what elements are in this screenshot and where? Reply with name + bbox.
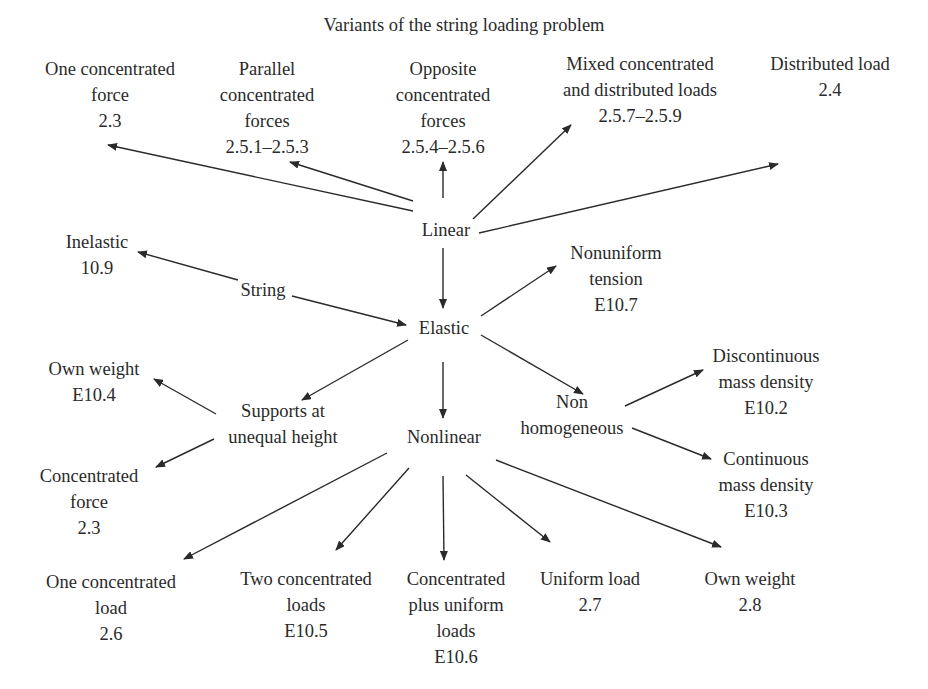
node-label-line: Own weight — [705, 566, 796, 592]
node-label-line: concentrated — [220, 82, 315, 108]
node-discontinuous-mass-density: Discontinuousmass densityE10.2 — [713, 343, 820, 421]
node-label-line: 2.7 — [540, 592, 640, 618]
arrow-non_homogeneous-to-discontinuous_mass_density — [625, 370, 703, 406]
node-label-line: forces — [396, 108, 491, 134]
node-mixed-loads: Mixed concentratedand distributed loads2… — [563, 51, 717, 129]
node-nonlinear: Nonlinear — [407, 424, 481, 450]
node-one-concentrated-load: One concentratedload2.6 — [46, 569, 176, 647]
node-label-line: 2.3 — [40, 515, 139, 541]
node-label-line: forces — [220, 108, 315, 134]
node-label-line: Distributed load — [770, 51, 890, 77]
node-label-line: loads — [240, 592, 372, 618]
node-non-homogeneous: Nonhomogeneous — [521, 389, 624, 441]
arrow-linear-to-parallel_concentrated_forces — [290, 162, 413, 201]
arrow-nonlinear-to-uniform_load — [466, 475, 550, 542]
node-label-line: String — [240, 277, 285, 303]
node-label-line: Parallel — [220, 56, 315, 82]
node-label-line: 2.5.7–2.5.9 — [563, 103, 717, 129]
node-concentrated-plus-uniform-loads: Concentratedplus uniformloadsE10.6 — [407, 566, 506, 670]
node-label-line: E10.3 — [718, 498, 813, 524]
node-inelastic: Inelastic10.9 — [66, 229, 129, 281]
node-label-line: mass density — [713, 369, 820, 395]
node-label-line: Continuous — [718, 446, 813, 472]
arrow-nonlinear-to-one_concentrated_load — [184, 453, 387, 559]
arrow-non_homogeneous-to-continuous_mass_density — [632, 428, 711, 459]
node-label-line: One concentrated — [46, 569, 176, 595]
node-label-line: Own weight — [49, 356, 140, 382]
node-label-line: E10.6 — [407, 644, 506, 670]
node-label-line: Non — [521, 389, 624, 415]
node-label-line: E10.4 — [49, 382, 140, 408]
node-one-concentrated-force: One concentratedforce2.3 — [45, 56, 175, 134]
node-label-line: Inelastic — [66, 229, 129, 255]
node-label-line: loads — [407, 618, 506, 644]
node-label-line: concentrated — [396, 82, 491, 108]
node-nonuniform-tension: NonuniformtensionE10.7 — [570, 240, 661, 318]
node-string: String — [240, 277, 285, 303]
node-concentrated-force-2-3: Concentratedforce2.3 — [40, 463, 139, 541]
diagram-title: Variants of the string loading problem — [0, 14, 928, 36]
arrow-string-to-inelastic — [138, 252, 238, 280]
node-own-weight-2-8: Own weight2.8 — [705, 566, 796, 618]
node-label-line: Discontinuous — [713, 343, 820, 369]
node-label-line: One concentrated — [45, 56, 175, 82]
node-label-line: Concentrated — [40, 463, 139, 489]
node-elastic: Elastic — [419, 315, 469, 341]
node-label-line: Nonlinear — [407, 424, 481, 450]
cropped-caption-line — [520, 683, 928, 689]
node-label-line: Concentrated — [407, 566, 506, 592]
node-label-line: Supports at — [228, 398, 337, 424]
node-label-line: tension — [570, 266, 661, 292]
node-uniform-load: Uniform load2.7 — [540, 566, 640, 618]
node-label-line: 2.4 — [770, 77, 890, 103]
node-label-line: 2.6 — [46, 621, 176, 647]
arrow-supports_unequal_height-to-own_weight_e104 — [154, 379, 216, 414]
node-two-concentrated-loads: Two concentratedloadsE10.5 — [240, 566, 372, 644]
node-own-weight-e10-4: Own weightE10.4 — [49, 356, 140, 408]
node-linear: Linear — [422, 217, 470, 243]
node-label-line: plus uniform — [407, 592, 506, 618]
node-label-line: and distributed loads — [563, 77, 717, 103]
node-label-line: force — [45, 82, 175, 108]
node-label-line: load — [46, 595, 176, 621]
node-label-line: Elastic — [419, 315, 469, 341]
node-label-line: Opposite — [396, 56, 491, 82]
node-label-line: Mixed concentrated — [563, 51, 717, 77]
node-label-line: Two concentrated — [240, 566, 372, 592]
node-label-line: E10.2 — [713, 395, 820, 421]
node-opposite-concentrated-forces: Oppositeconcentratedforces2.5.4–2.5.6 — [396, 56, 491, 160]
arrow-nonlinear-to-concentrated_plus_uniform — [443, 476, 444, 560]
node-label-line: E10.5 — [240, 618, 372, 644]
arrow-elastic-to-supports_unequal_height — [302, 340, 408, 400]
arrow-nonlinear-to-own_weight_28 — [496, 460, 721, 547]
node-label-line: homogeneous — [521, 415, 624, 441]
node-label-line: 10.9 — [66, 255, 129, 281]
node-parallel-concentrated-forces: Parallelconcentratedforces2.5.1–2.5.3 — [220, 56, 315, 160]
node-label-line: E10.7 — [570, 292, 661, 318]
node-label-line: mass density — [718, 472, 813, 498]
node-distributed-load: Distributed load2.4 — [770, 51, 890, 103]
node-continuous-mass-density: Continuousmass densityE10.3 — [718, 446, 813, 524]
node-supports-unequal-height: Supports atunequal height — [228, 398, 337, 450]
arrow-string-to-elastic — [292, 296, 406, 325]
node-label-line: force — [40, 489, 139, 515]
node-label-line: unequal height — [228, 424, 337, 450]
node-label-line: Linear — [422, 217, 470, 243]
node-label-line: 2.3 — [45, 108, 175, 134]
node-label-line: 2.8 — [705, 592, 796, 618]
edge-group — [108, 125, 778, 560]
arrow-elastic-to-nonuniform_tension — [481, 266, 556, 316]
string-loading-variants-diagram: Variants of the string loading problem O… — [0, 0, 928, 689]
arrow-supports_unequal_height-to-concentrated_force_23 — [156, 439, 214, 467]
arrow-elastic-to-non_homogeneous — [481, 335, 583, 394]
node-label-line: Uniform load — [540, 566, 640, 592]
node-label-line: 2.5.1–2.5.3 — [220, 134, 315, 160]
arrow-linear-to-distributed_load — [479, 164, 778, 233]
arrow-nonlinear-to-two_concentrated_loads — [336, 468, 409, 550]
node-label-line: 2.5.4–2.5.6 — [396, 134, 491, 160]
node-label-line: Nonuniform — [570, 240, 661, 266]
